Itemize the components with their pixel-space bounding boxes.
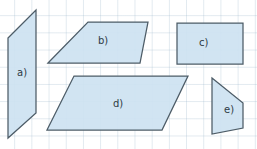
shape-layer <box>0 0 257 149</box>
shape-label-b: b) <box>98 36 108 46</box>
geometry-worksheet-canvas: a) b) c) d) e) <box>0 0 257 149</box>
shape-c[interactable] <box>177 23 243 64</box>
shape-label-c: c) <box>199 38 208 48</box>
shape-label-d: d) <box>113 99 123 109</box>
shape-label-a: a) <box>17 68 27 78</box>
shape-label-e: e) <box>224 105 234 115</box>
